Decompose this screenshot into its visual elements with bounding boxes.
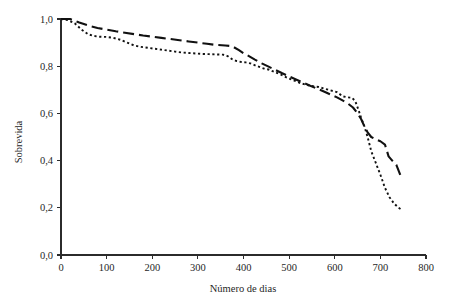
- x-tick-label: 800: [418, 262, 434, 273]
- x-tick-label: 500: [281, 262, 297, 273]
- y-tick-label: 0,0: [40, 250, 53, 261]
- y-tick-label: 0,8: [40, 61, 53, 72]
- y-axis-title: Sobrevida: [13, 120, 24, 163]
- x-tick-label: 700: [373, 262, 389, 273]
- y-tick-label: 0,6: [40, 108, 53, 119]
- x-tick-label: 100: [99, 262, 115, 273]
- y-tick-label: 0,4: [40, 155, 54, 166]
- x-tick-label: 300: [190, 262, 206, 273]
- x-tick-label: 400: [236, 262, 252, 273]
- x-tick-label: 0: [58, 262, 63, 273]
- x-tick-label: 200: [144, 262, 160, 273]
- y-tick-label: 1,0: [40, 14, 53, 25]
- survival-chart-figure: 0100200300400500600700800 0,00,20,40,60,…: [0, 0, 456, 305]
- x-axis-ticks: 0100200300400500600700800: [58, 255, 434, 273]
- data-series-group: [61, 19, 402, 210]
- series-line-curva-pontilhada: [61, 19, 402, 210]
- chart-canvas: 0100200300400500600700800 0,00,20,40,60,…: [0, 0, 456, 305]
- y-tick-label: 0,2: [40, 202, 53, 213]
- x-axis-title: Número de dias: [210, 283, 276, 294]
- y-axis-ticks: 0,00,20,40,60,81,0: [40, 14, 61, 261]
- x-tick-label: 600: [327, 262, 343, 273]
